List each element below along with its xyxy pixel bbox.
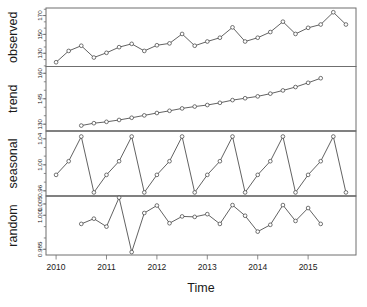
data-point <box>180 32 184 36</box>
x-tick-label-1: 2011 <box>97 262 116 272</box>
data-point <box>243 40 247 44</box>
data-point <box>79 222 83 226</box>
data-point <box>155 111 159 115</box>
data-point <box>193 44 197 48</box>
data-point <box>117 118 121 122</box>
data-point <box>67 159 71 163</box>
data-point <box>79 44 83 48</box>
data-point <box>256 230 260 234</box>
data-point <box>54 60 58 64</box>
data-point <box>319 222 323 226</box>
data-point <box>268 223 272 227</box>
data-point <box>218 159 222 163</box>
panel-seasonal: 0.961.001.04 <box>36 131 356 197</box>
data-point <box>294 85 298 89</box>
data-point <box>130 135 134 139</box>
data-point <box>180 135 184 139</box>
data-point <box>142 191 146 195</box>
data-point <box>168 159 172 163</box>
data-point <box>344 191 348 195</box>
data-point <box>92 191 96 195</box>
data-point <box>130 116 134 120</box>
data-point <box>142 49 146 53</box>
data-point <box>168 42 172 46</box>
data-point <box>142 114 146 118</box>
data-point <box>306 206 310 210</box>
data-point <box>155 43 159 47</box>
y-tick-label-seasonal-0: 0.96 <box>36 184 43 197</box>
y-tick-label-random-2: 1.005 <box>36 196 43 212</box>
data-point <box>168 109 172 113</box>
panel-label-random: random <box>6 204 20 246</box>
plot-canvas: 130150170observed130145160trend0.961.001… <box>0 0 367 307</box>
x-axis: 201020112012201320142015 <box>47 255 318 272</box>
data-point <box>281 135 285 139</box>
y-tick-label-trend-1: 145 <box>36 93 43 104</box>
data-point <box>117 159 121 163</box>
data-point <box>281 89 285 93</box>
data-point <box>231 203 235 207</box>
series-line-trend <box>81 78 320 125</box>
y-tick-label-random-0: 0.985 <box>36 241 43 257</box>
data-point <box>268 159 272 163</box>
data-point <box>105 51 109 55</box>
data-point <box>319 159 323 163</box>
x-tick-label-3: 2013 <box>198 262 217 272</box>
data-point <box>92 217 96 221</box>
x-tick-label-5: 2015 <box>299 262 318 272</box>
data-point <box>218 101 222 105</box>
data-point <box>294 32 298 36</box>
data-point <box>281 20 285 24</box>
series-line-observed <box>56 12 346 62</box>
data-point <box>243 96 247 100</box>
data-point <box>205 103 209 107</box>
data-point <box>105 173 109 177</box>
data-point <box>218 36 222 40</box>
data-point <box>344 23 348 27</box>
data-point <box>105 120 109 124</box>
data-point <box>294 219 298 223</box>
series-line-seasonal <box>56 137 346 193</box>
data-point <box>205 40 209 44</box>
x-axis-title: Time <box>187 281 214 295</box>
y-tick-label-observed-1: 150 <box>36 29 43 40</box>
data-point <box>306 173 310 177</box>
data-point <box>117 45 121 49</box>
data-point <box>231 25 235 29</box>
data-point <box>180 107 184 111</box>
data-point <box>180 215 184 219</box>
data-point <box>193 105 197 109</box>
y-tick-label-observed-2: 170 <box>36 10 43 21</box>
panel-observed: 130150170 <box>36 8 356 67</box>
panel-border-random <box>46 196 356 255</box>
data-point <box>306 26 310 30</box>
data-point <box>130 250 134 254</box>
data-point <box>319 23 323 27</box>
data-point <box>256 95 260 99</box>
panel-trend: 130145160 <box>36 67 356 132</box>
panel-border-trend <box>46 67 356 132</box>
panel-label-trend: trend <box>6 84 20 113</box>
data-point <box>205 173 209 177</box>
data-point <box>319 76 323 80</box>
x-tick-label-4: 2014 <box>248 262 267 272</box>
data-point <box>155 204 159 208</box>
y-tick-label-seasonal-1: 1.00 <box>36 158 43 171</box>
data-point <box>231 98 235 102</box>
data-point <box>218 222 222 226</box>
y-tick-label-observed-0: 130 <box>36 48 43 59</box>
panel-label-seasonal: seasonal <box>6 138 20 188</box>
data-point <box>281 203 285 207</box>
data-point <box>231 135 235 139</box>
data-point <box>142 211 146 215</box>
data-point <box>79 135 83 139</box>
data-point <box>92 56 96 60</box>
data-point <box>105 225 109 229</box>
data-point <box>130 42 134 46</box>
data-point <box>92 121 96 125</box>
data-point <box>193 191 197 195</box>
panel-label-observed: observed <box>6 11 20 62</box>
data-point <box>54 173 58 177</box>
data-point <box>331 135 335 139</box>
data-point <box>331 10 335 14</box>
